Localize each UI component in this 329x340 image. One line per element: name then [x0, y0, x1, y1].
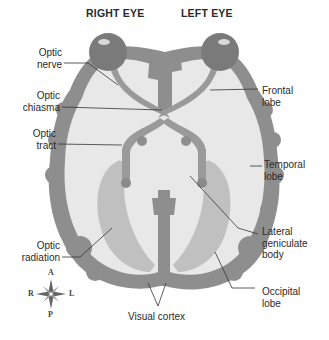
compass-anterior: A: [48, 268, 54, 277]
compass-left: L: [69, 289, 74, 298]
compass-rose-icon: [0, 0, 329, 340]
compass-posterior: P: [48, 310, 53, 319]
compass-right: R: [28, 289, 34, 298]
